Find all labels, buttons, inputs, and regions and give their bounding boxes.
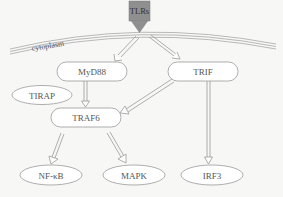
node-traf6[interactable]: TRAF6 xyxy=(51,108,121,127)
traf6-label: TRAF6 xyxy=(72,113,100,123)
tlrs-label: TLRs xyxy=(130,6,149,16)
edge-traf6-nfkb xyxy=(49,133,64,164)
edge-trif-traf6 xyxy=(120,79,174,114)
trif-label: TRIF xyxy=(193,67,213,77)
tirap-label: TIRAP xyxy=(29,91,55,101)
tlr-pathway-diagram: cytoplasm TLRs xyxy=(0,0,283,197)
node-irf3[interactable]: IRF3 xyxy=(181,165,243,185)
edge-tlrs-myd88 xyxy=(114,36,139,61)
node-tirap[interactable]: TIRAP xyxy=(12,86,72,105)
cytoplasm-label: cytoplasm xyxy=(31,39,66,53)
edge-myd88-traf6 xyxy=(82,81,90,107)
node-myd88[interactable]: MyD88 xyxy=(57,62,127,81)
mapk-label: MAPK xyxy=(121,171,148,181)
node-nfkb[interactable]: NF-κB xyxy=(20,165,82,185)
tlrs-receptor[interactable]: TLRs xyxy=(129,1,150,33)
edge-tlrs-trif xyxy=(149,35,180,59)
node-trif[interactable]: TRIF xyxy=(168,62,238,81)
myd88-label: MyD88 xyxy=(78,67,107,77)
edge-traf6-mapk xyxy=(107,132,126,163)
tlrs-arrow-icon xyxy=(131,21,148,33)
edge-trif-irf3 xyxy=(205,81,213,164)
pathway-edges xyxy=(49,35,213,164)
node-mapk[interactable]: MAPK xyxy=(103,165,165,185)
irf3-label: IRF3 xyxy=(203,171,222,181)
nfkb-label: NF-κB xyxy=(38,171,63,181)
